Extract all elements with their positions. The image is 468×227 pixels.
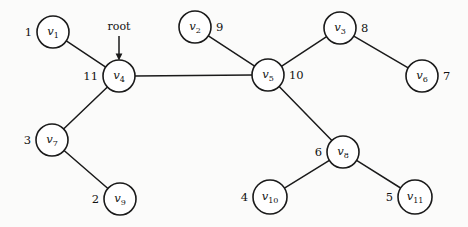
node-weight-v2: 9 <box>216 20 223 34</box>
node-v9: v92 <box>92 183 136 215</box>
edge-v2-v5 <box>208 36 254 66</box>
edge-v3-v6 <box>354 36 408 68</box>
node-weight-v1: 1 <box>25 25 32 39</box>
diagram-canvas: root v11v29v38v411v510v67v73v86v92v104v1… <box>0 0 468 227</box>
node-weight-v9: 2 <box>92 192 99 206</box>
root-pointer-layer: root <box>108 20 132 61</box>
node-weight-v7: 3 <box>24 133 31 147</box>
edge-v5-v8 <box>279 86 332 140</box>
node-v5: v510 <box>252 59 304 91</box>
node-v11: v115 <box>386 180 432 214</box>
edge-v8-v11 <box>357 160 401 188</box>
node-v10: v104 <box>241 180 287 214</box>
node-weight-v8: 6 <box>315 145 322 159</box>
node-v8: v86 <box>315 136 359 168</box>
node-v6: v67 <box>406 60 450 92</box>
node-weight-v5: 10 <box>289 68 304 82</box>
tree-diagram: root v11v29v38v411v510v67v73v86v92v104v1… <box>0 0 468 227</box>
edge-layer <box>64 36 409 189</box>
edge-v5-v3 <box>281 37 326 67</box>
edge-v1-v4 <box>66 41 105 67</box>
node-weight-v4: 11 <box>83 69 98 83</box>
node-v1: v11 <box>25 16 69 48</box>
node-v2: v29 <box>179 11 223 43</box>
node-layer: v11v29v38v411v510v67v73v86v92v104v115 <box>24 11 451 215</box>
node-weight-v3: 8 <box>361 21 368 35</box>
edge-v4-v5 <box>135 75 252 76</box>
node-weight-v10: 4 <box>241 190 248 204</box>
edge-v4-v7 <box>64 87 108 129</box>
root-label: root <box>108 20 132 33</box>
node-v7: v73 <box>24 124 68 156</box>
node-v4: v411 <box>83 60 135 92</box>
edge-v7-v9 <box>64 150 108 188</box>
edge-v8-v10 <box>284 160 329 188</box>
node-weight-v11: 5 <box>386 190 393 204</box>
node-weight-v6: 7 <box>443 69 450 83</box>
node-v3: v38 <box>324 12 368 44</box>
